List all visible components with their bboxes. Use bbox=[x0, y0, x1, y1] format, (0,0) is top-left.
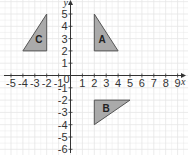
y-tick-label: 5 bbox=[61, 8, 67, 20]
x-tick-label: -5 bbox=[6, 77, 16, 89]
y-tick-label: -2 bbox=[58, 94, 68, 106]
x-tick-label: -4 bbox=[18, 77, 28, 89]
y-tick-label: -3 bbox=[58, 106, 68, 118]
x-tick-label: 5 bbox=[127, 77, 133, 89]
x-tick-label: 2 bbox=[91, 77, 97, 89]
y-axis-arrow-icon bbox=[68, 0, 73, 5]
y-axis-label: y bbox=[63, 0, 69, 8]
x-tick-label: 1 bbox=[79, 77, 85, 89]
x-tick-label: 6 bbox=[139, 77, 145, 89]
x-tick-label: -3 bbox=[30, 77, 40, 89]
triangle-label: A bbox=[99, 34, 106, 45]
y-tick-label: -5 bbox=[58, 131, 68, 143]
origin-label: 0 bbox=[63, 73, 69, 85]
x-tick-label: 4 bbox=[115, 77, 121, 89]
y-tick-label: 4 bbox=[61, 20, 67, 32]
y-tick-label: 2 bbox=[61, 45, 67, 57]
x-tick-label: 3 bbox=[103, 77, 109, 89]
x-axis-label: x bbox=[180, 76, 186, 87]
triangle-label: B bbox=[103, 103, 110, 114]
x-tick-label: -2 bbox=[42, 77, 52, 89]
y-tick-label: -6 bbox=[58, 143, 68, 155]
coordinate-grid: ABC xy-5-4-3-2-112345678954321-1-2-3-4-5… bbox=[0, 0, 188, 155]
y-tick-label: -4 bbox=[58, 119, 68, 131]
x-tick-label: 7 bbox=[151, 77, 157, 89]
y-tick-label: 3 bbox=[61, 33, 67, 45]
y-tick-label: 1 bbox=[61, 57, 67, 69]
x-tick-label: 8 bbox=[163, 77, 169, 89]
triangle-label: C bbox=[35, 34, 42, 45]
x-tick-label: 9 bbox=[175, 77, 181, 89]
